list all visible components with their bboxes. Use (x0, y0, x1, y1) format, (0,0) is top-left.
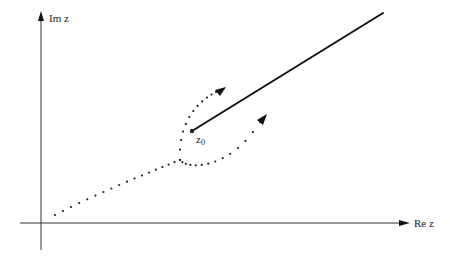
lower-path-dot (185, 163, 187, 165)
approach-path-dot (110, 187, 112, 189)
approach-path-dot (133, 177, 135, 179)
approach-path-dot (141, 174, 143, 176)
approach-path-dot (155, 169, 157, 171)
lower-path-arrow-icon (257, 114, 267, 125)
upper-path-dot (206, 97, 208, 99)
lower-path-dot (244, 140, 246, 142)
lower-path-dot (181, 161, 183, 163)
complex-plane-diagram: Im z Re z z0 (0, 0, 450, 261)
approach-path-dot (94, 195, 96, 197)
lower-path-dot (237, 147, 239, 149)
dotted-path-approach (54, 159, 181, 216)
branch-cut-line (192, 13, 383, 131)
lower-path-dot (214, 160, 216, 162)
branch-point-label: z0 (196, 133, 205, 147)
dotted-path-upper (179, 91, 217, 161)
upper-path-dot (180, 139, 182, 141)
upper-path-arrow-icon (215, 87, 226, 96)
lower-path-dot (189, 164, 191, 166)
lower-path-dot (201, 164, 203, 166)
upper-path-dot (188, 116, 190, 118)
approach-path-dot (173, 161, 175, 163)
dotted-path-lower (179, 121, 261, 166)
approach-path-dot (161, 166, 163, 168)
upper-path-dot (201, 100, 203, 102)
lower-path-dot (229, 153, 231, 155)
upper-path-dot (192, 110, 194, 112)
approach-path-dot (86, 198, 88, 200)
lower-path-dot (179, 159, 181, 161)
upper-path-dot (197, 105, 199, 107)
imaginary-axis-arrow-icon (38, 11, 44, 21)
real-axis-arrow-icon (399, 220, 410, 226)
branch-point (190, 129, 194, 133)
approach-path-dot (62, 210, 64, 212)
approach-path-dot (148, 171, 150, 173)
approach-path-dot (102, 191, 104, 193)
approach-path-dot (70, 206, 72, 208)
lower-path-dot (222, 157, 224, 159)
lower-path-dot (195, 164, 197, 166)
lower-path-dot (252, 131, 254, 133)
approach-path-dot (54, 214, 56, 216)
lower-path-dot (207, 163, 209, 165)
upper-path-dot (210, 93, 212, 95)
approach-path-dot (118, 184, 120, 186)
approach-path-dot (78, 202, 80, 204)
upper-path-dot (182, 131, 184, 133)
approach-path-dot (168, 164, 170, 166)
imaginary-axis-label: Im z (49, 12, 69, 24)
upper-path-dot (185, 123, 187, 125)
real-axis-label: Re z (414, 217, 434, 229)
upper-path-dot (179, 149, 181, 151)
approach-path-dot (126, 181, 128, 183)
